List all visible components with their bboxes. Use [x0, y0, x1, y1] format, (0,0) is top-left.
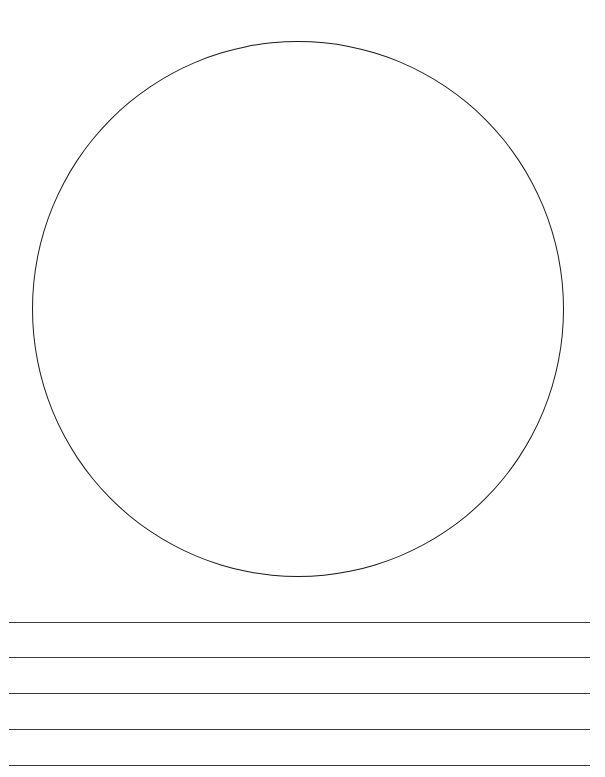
writing-line[interactable]	[9, 729, 590, 730]
writing-line[interactable]	[9, 765, 590, 766]
writing-lines-area	[9, 0, 590, 777]
writing-line[interactable]	[9, 622, 590, 623]
writing-line[interactable]	[9, 657, 590, 658]
writing-line[interactable]	[9, 693, 590, 694]
worksheet-page: { "worksheet": { "type": "draw-and-write…	[0, 0, 605, 777]
